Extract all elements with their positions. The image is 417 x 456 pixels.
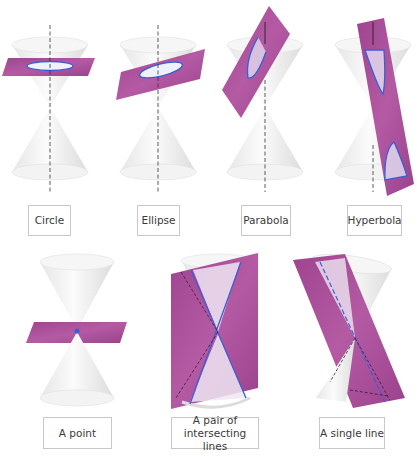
label-ellipse: Ellipse [137,205,180,236]
lower-nappe-rim [40,390,114,406]
label-intersecting-lines: A pair of intersecting lines [171,417,259,449]
panel-intersecting-lines [171,253,258,409]
upper-nappe [40,262,114,330]
point-intersection [74,328,79,333]
panel-parabola [222,6,303,192]
cutting-plane [293,254,405,408]
panel-single-line [293,251,405,408]
panel-circle [2,25,95,192]
label-circle: Circle [28,205,71,236]
panel-ellipse [116,25,205,192]
upper-nappe-rim [40,254,114,270]
label-point: A point [43,417,112,449]
label-hyperbola: Hyperbola [347,205,402,236]
panel-hyperbola [335,18,414,196]
label-parabola: Parabola [241,205,291,236]
label-single-line: A single line [319,417,385,449]
panel-point [26,254,127,406]
